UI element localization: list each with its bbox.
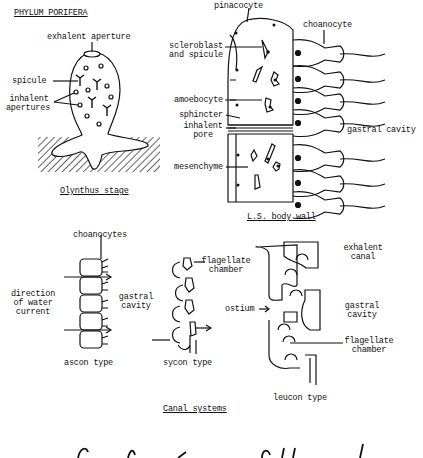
label-inhalent-pore-line2: pore (178, 131, 228, 140)
ascon-caption: ascon type (64, 359, 113, 368)
label-sphincter: sphincter (163, 111, 223, 120)
ascon-drawing (64, 235, 111, 348)
leucon-caption: leucon type (273, 394, 327, 403)
label-spicule: spicule (12, 77, 46, 86)
label-leucon-flagellate-line2: chamber (342, 346, 396, 355)
label-amoebocyte: amoebocyte (163, 96, 223, 105)
olynthus-drawing (38, 42, 160, 172)
olynthus-caption: Olynthus stage (60, 187, 129, 196)
label-ascon-gastral-line2: cavity (116, 302, 156, 311)
diagram-drawing (0, 0, 423, 458)
label-gastral-cavity: gastral cavity (347, 126, 416, 135)
body-wall-drawing (225, 8, 385, 219)
label-exhalent-canal-line2: canal (340, 253, 386, 262)
label-choanocyte: choanocyte (303, 21, 352, 30)
label-ostium: ostium (225, 305, 254, 314)
label-direction-line3: current (8, 308, 58, 317)
body-wall-caption: L.S. body wall (247, 213, 316, 222)
sycon-caption: sycon type (163, 359, 212, 368)
label-choanocytes: choanocytes (73, 231, 127, 240)
label-mesenchyme: mesenchyme (163, 163, 223, 172)
leucon-drawing (256, 242, 343, 385)
label-inhalent-apertures-line2: apertures (3, 104, 53, 113)
page-title: PHYLUM PORIFERA (14, 9, 88, 18)
canal-systems-caption: Canal systems (163, 405, 227, 414)
label-sycon-flagellate-line2: chamber (200, 266, 252, 275)
label-exhalent-aperture: exhalent aperture (47, 33, 130, 42)
label-scleroblast-line2: and spicule (163, 51, 223, 60)
label-leucon-gastral-line2: cavity (340, 311, 384, 320)
label-pinacocyte: pinacocyte (214, 2, 263, 11)
